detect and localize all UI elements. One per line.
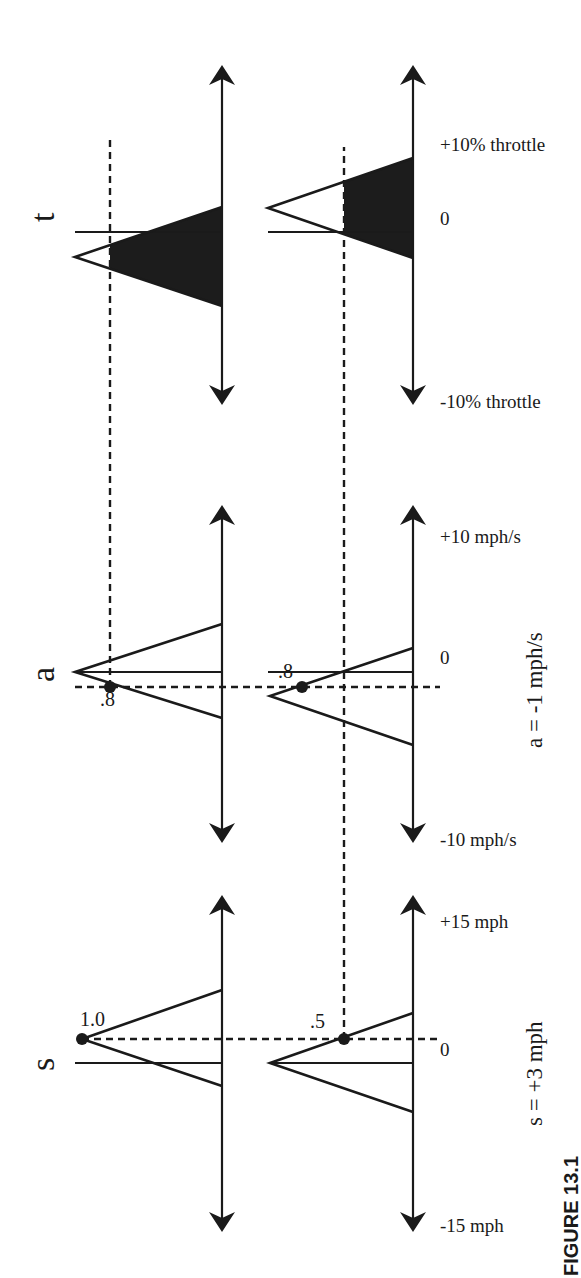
a-axis-min-label: -10 mph/s [440, 829, 517, 850]
a-input-caption: a = -1 mph/s [522, 632, 547, 748]
s-input-caption: s = +3 mph [522, 1021, 547, 1126]
s-row1-membership-label: 1.0 [80, 1008, 105, 1030]
s-row1: 1.0 [75, 895, 235, 1232]
header-a: a [24, 667, 61, 682]
header-s: s [24, 1058, 61, 1071]
a-axis-max-label: +10 mph/s [440, 526, 521, 547]
s-row1-membership-triangle [82, 990, 222, 1086]
s-row2: .5 [270, 895, 426, 1232]
s-axis-zero-label: 0 [440, 1039, 450, 1060]
a-row1: .8 [75, 505, 235, 843]
s-axis-min-label: -15 mph [440, 1215, 504, 1236]
t-row1-clipped-output [110, 207, 222, 306]
a-row2: .8 [268, 505, 426, 843]
t-row2-clipped-output [344, 158, 413, 258]
a-row1-membership-label: .8 [100, 688, 115, 710]
s-axis-max-label: +15 mph [440, 911, 509, 932]
t-row2 [268, 65, 426, 405]
fuzzy-logic-figure: s 1.0 .5 [0, 0, 581, 1278]
column-a: a .8 .8 -1 [24, 505, 547, 850]
t-axis-min-label: -10% throttle [440, 391, 541, 412]
t-row1 [75, 65, 235, 405]
figure-caption: FIGURE 13.1 [560, 1156, 581, 1276]
a-axis-zero-label: 0 [440, 647, 450, 668]
t-axis-max-label: +10% throttle [440, 134, 545, 155]
column-s: s 1.0 .5 [24, 895, 547, 1236]
column-t: t -10% throttle 0 +10% thrott [24, 65, 545, 412]
t-axis-zero-label: 0 [440, 208, 450, 229]
a-row2-membership-label: .8 [278, 660, 293, 682]
s-row2-membership-label: .5 [310, 1010, 325, 1032]
header-t: t [24, 212, 61, 222]
